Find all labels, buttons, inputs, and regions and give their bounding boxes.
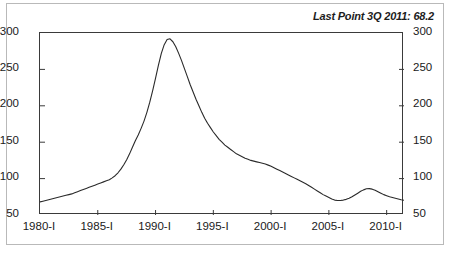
y-axis-left-tick-label: 200 bbox=[0, 97, 19, 109]
x-axis-tick-label: 2010-I bbox=[369, 220, 402, 232]
y-axis-left-tick-label: 100 bbox=[0, 170, 19, 182]
x-axis-tick-label: 1995-I bbox=[196, 220, 229, 232]
series-line-chart bbox=[40, 33, 404, 215]
y-axis-right-tick-label: 150 bbox=[413, 134, 432, 146]
y-axis-right-tick-label: 250 bbox=[413, 61, 432, 73]
x-axis-tick-label: 1980-I bbox=[23, 220, 56, 232]
y-axis-right-ticks bbox=[399, 69, 404, 178]
last-point-annotation: Last Point 3Q 2011: 68.2 bbox=[313, 10, 434, 22]
y-axis-right-tick-label: 50 bbox=[413, 207, 426, 219]
x-axis-tick-label: 1985-I bbox=[80, 220, 113, 232]
y-axis-right-tick-label: 100 bbox=[413, 170, 432, 182]
figure-panel: Last Point 3Q 2011: 68.2 501001502002503… bbox=[6, 3, 444, 245]
x-axis-ticks bbox=[98, 210, 387, 215]
data-series-line bbox=[40, 39, 404, 202]
x-axis-tick-label: 2005-I bbox=[312, 220, 345, 232]
y-axis-left-tick-label: 50 bbox=[6, 207, 19, 219]
y-axis-right-tick-label: 300 bbox=[413, 25, 432, 37]
x-axis-tick-label: 2000-I bbox=[254, 220, 287, 232]
y-axis-left-tick-label: 300 bbox=[0, 25, 19, 37]
y-axis-left-ticks bbox=[40, 69, 45, 178]
y-axis-left-tick-label: 250 bbox=[0, 61, 19, 73]
plot-area bbox=[39, 32, 403, 214]
x-axis-tick-label: 1990-I bbox=[138, 220, 171, 232]
y-axis-left-tick-label: 150 bbox=[0, 134, 19, 146]
y-axis-right-tick-label: 200 bbox=[413, 97, 432, 109]
